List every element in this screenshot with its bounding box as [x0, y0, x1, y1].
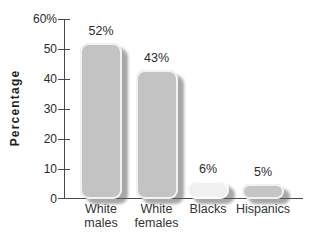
x-tick-label: Hispanics — [234, 203, 292, 217]
bar-value-label: 5% — [238, 165, 288, 179]
y-tick-label: 20 — [17, 132, 57, 146]
y-tick-mark — [58, 109, 70, 110]
y-tick-mark — [58, 49, 70, 50]
x-tick-label: White males — [72, 203, 130, 230]
bar-blacks — [187, 181, 229, 199]
bar-white-females — [136, 70, 178, 199]
y-tick-label: 10 — [17, 162, 57, 176]
bar-value-label: 52% — [76, 24, 126, 38]
y-tick-label: 0 — [17, 192, 57, 206]
y-tick-mark — [58, 79, 70, 80]
y-tick-label: 40 — [17, 72, 57, 86]
bar-value-label: 6% — [183, 162, 233, 176]
bar-chart: Percentage 60%5040302010052%White males4… — [0, 0, 309, 238]
y-tick-label: 30 — [17, 102, 57, 116]
bar-hispanics — [242, 184, 284, 199]
x-tick-label: Blacks — [179, 203, 237, 217]
y-tick-label: 60% — [17, 12, 57, 26]
y-tick-mark — [58, 19, 70, 20]
x-tick-label: White females — [128, 203, 186, 230]
y-tick-label: 50 — [17, 42, 57, 56]
bar-white-males — [80, 43, 122, 199]
bar-value-label: 43% — [132, 51, 182, 65]
y-tick-mark — [58, 139, 70, 140]
y-tick-mark — [58, 169, 70, 170]
